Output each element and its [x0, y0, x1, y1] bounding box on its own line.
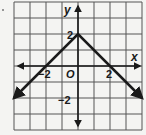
y-tick-label-neg2: −2: [58, 94, 71, 106]
origin-label: O: [66, 68, 75, 80]
x-axis-label: x: [130, 50, 139, 64]
y-tick-label-2: 2: [67, 29, 73, 41]
y-axis-label: y: [63, 3, 72, 17]
x-tick-label-2: 2: [106, 68, 112, 80]
coordinate-plane: y x 2 O −2 2 −2: [0, 0, 146, 135]
axes: [18, 6, 140, 126]
stray-mark: [2, 9, 4, 11]
x-tick-label-neg2: −2: [38, 68, 51, 80]
absolute-value-graph-figure: y x 2 O −2 2 −2: [0, 0, 146, 135]
